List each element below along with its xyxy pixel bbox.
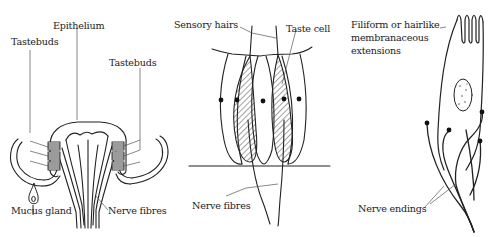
label-tastebuds-left: Tastebuds bbox=[11, 36, 58, 47]
taste-cell-leader-lines bbox=[424, 27, 456, 208]
taste-cell-drawing bbox=[438, 16, 483, 171]
nerve-endings-drawing bbox=[427, 113, 482, 232]
label-taste-cell: Taste cell bbox=[286, 23, 330, 34]
tastebud-drawing bbox=[189, 26, 330, 226]
label-epithelium: Epithelium bbox=[53, 20, 104, 31]
label-filiform-line3: extensions bbox=[351, 45, 401, 56]
label-sensory-hairs: Sensory hairs bbox=[174, 19, 238, 30]
label-nerve-fibres-papilla: Nerve fibres bbox=[108, 205, 166, 216]
label-mucus-gland: Mucus gland bbox=[11, 205, 72, 216]
taste-anatomy-figure: Tastebuds Epithelium Tastebuds Mucus gla… bbox=[0, 0, 495, 237]
label-nerve-fibres-bud: Nerve fibres bbox=[192, 200, 250, 211]
label-filiform-line2: membranaceous bbox=[351, 32, 429, 43]
nerve-ending-bulbs bbox=[425, 110, 485, 144]
label-nerve-endings: Nerve endings bbox=[358, 203, 427, 214]
taste-cell-right-hatched bbox=[272, 55, 293, 162]
nucleus-speckles bbox=[458, 83, 467, 104]
tastebud-stack-left bbox=[48, 142, 60, 170]
label-tastebuds-right: Tastebuds bbox=[109, 57, 156, 68]
label-filiform-line1: Filiform or hairlike bbox=[351, 19, 440, 30]
tastebud-stack-right bbox=[112, 142, 124, 170]
taste-cell-left-hatched bbox=[234, 56, 257, 162]
